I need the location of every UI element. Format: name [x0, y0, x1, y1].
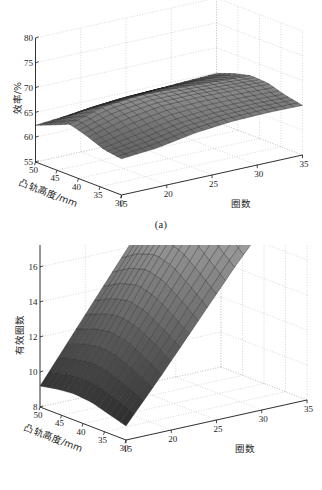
svg-text:80: 80	[24, 33, 34, 43]
svg-text:50: 50	[34, 410, 44, 420]
svg-text:35: 35	[304, 404, 314, 414]
svg-text:45: 45	[55, 418, 65, 428]
svg-text:40: 40	[72, 182, 82, 192]
svg-text:圈数: 圈数	[235, 443, 255, 454]
svg-text:40: 40	[77, 427, 87, 437]
svg-text:35: 35	[300, 159, 310, 169]
surface-mesh-b	[40, 245, 307, 426]
svg-text:有效圈数: 有效圈数	[14, 315, 25, 355]
svg-text:45: 45	[51, 173, 61, 183]
svg-text:25: 25	[209, 179, 219, 189]
svg-text:12: 12	[29, 332, 38, 342]
surface-mesh-a	[36, 73, 303, 158]
svg-text:15: 15	[123, 444, 133, 454]
svg-text:10: 10	[29, 367, 39, 377]
svg-text:25: 25	[214, 424, 224, 434]
svg-text:60: 60	[24, 132, 34, 142]
svg-text:30: 30	[254, 169, 264, 179]
svg-text:70: 70	[24, 83, 34, 93]
surface-plot-a: 80757065605550454035301520253035效率/%凸轨高度…	[0, 0, 322, 245]
surface-plot-b: 2422201816141210850454035301520253035有效圈…	[0, 245, 322, 490]
chart-panel-b: 2422201816141210850454035301520253035有效圈…	[0, 245, 322, 490]
svg-text:圈数: 圈数	[231, 198, 251, 209]
svg-text:15: 15	[119, 199, 129, 209]
svg-text:50: 50	[29, 165, 39, 175]
svg-text:20: 20	[164, 189, 174, 199]
svg-text:凸轨高度/mm: 凸轨高度/mm	[17, 177, 79, 209]
svg-text:凸轨高度/mm: 凸轨高度/mm	[22, 422, 84, 454]
svg-text:20: 20	[168, 434, 178, 444]
svg-text:35: 35	[98, 435, 108, 445]
figure-container: 80757065605550454035301520253035效率/%凸轨高度…	[0, 0, 322, 490]
svg-text:30: 30	[259, 414, 269, 424]
svg-text:14: 14	[29, 297, 39, 307]
svg-text:效率/%: 效率/%	[12, 82, 23, 114]
svg-text:35: 35	[94, 190, 104, 200]
panel-caption-a: (a)	[0, 219, 322, 230]
svg-text:16: 16	[29, 262, 39, 272]
svg-text:75: 75	[24, 58, 34, 68]
chart-panel-a: 80757065605550454035301520253035效率/%凸轨高度…	[0, 0, 322, 245]
svg-text:65: 65	[24, 108, 34, 118]
